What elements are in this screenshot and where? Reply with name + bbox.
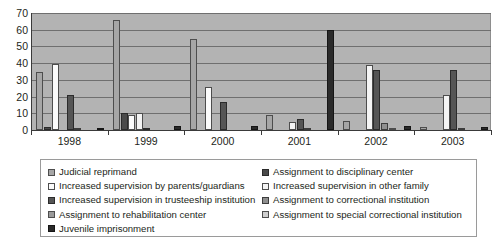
bar: [381, 123, 388, 130]
x-axis-tick: [491, 131, 492, 135]
legend-swatch-icon: [48, 211, 55, 218]
bar-chart: 010203040506070 199819992000200120022003: [0, 0, 496, 152]
bar: [220, 102, 227, 130]
bar-group: [338, 13, 415, 130]
bar-group: [414, 13, 491, 130]
legend-item[interactable]: Assignment to special correctional insti…: [262, 208, 482, 222]
bar: [121, 113, 128, 130]
bar: [67, 95, 74, 130]
legend-swatch-icon: [262, 211, 269, 218]
y-axis-tick-label: 40: [4, 58, 28, 68]
bar: [113, 20, 120, 130]
bar: [443, 95, 450, 130]
legend-item[interactable]: Assignment to rehabilitation center: [48, 208, 263, 222]
legend-column-right: Assignment to disciplinary centerIncreas…: [262, 165, 482, 222]
legend-swatch-icon: [262, 169, 269, 176]
legend-label: Assignment to rehabilitation center: [59, 210, 206, 220]
legend-swatch-icon: [48, 169, 55, 176]
bar: [266, 115, 273, 130]
bar: [373, 70, 380, 130]
y-axis-labels: 010203040506070: [0, 0, 28, 152]
x-axis-tick-label: 2000: [184, 135, 261, 147]
bar-group: [108, 13, 185, 130]
x-axis-tick-label: 2001: [261, 135, 338, 147]
bar: [343, 121, 350, 130]
y-axis-tick-label: 70: [4, 8, 28, 18]
legend-label: Judicial reprimand: [59, 167, 137, 177]
y-axis-tick-label: 10: [4, 108, 28, 118]
legend-swatch-icon: [48, 225, 55, 232]
legend-swatch-icon: [48, 183, 55, 190]
bar-group: [184, 13, 261, 130]
y-axis-tick-label: 20: [4, 92, 28, 102]
legend-item[interactable]: Assignment to disciplinary center: [262, 165, 482, 179]
bar: [136, 113, 143, 130]
legend: Judicial reprimandIncreased supervision …: [40, 159, 477, 237]
legend-label: Assignment to correctional institution: [273, 195, 429, 205]
bar: [205, 87, 212, 130]
legend-item[interactable]: Assignment to correctional institution: [262, 193, 482, 207]
legend-swatch-icon: [262, 197, 269, 204]
y-axis-tick-label: 0: [4, 125, 28, 135]
y-axis-tick-label: 60: [4, 25, 28, 35]
legend-label: Assignment to disciplinary center: [273, 167, 413, 177]
legend-label: Assignment to special correctional insti…: [273, 210, 462, 220]
bar: [36, 72, 43, 131]
bar: [190, 39, 197, 130]
legend-swatch-icon: [48, 197, 55, 204]
y-axis-tick-label: 30: [4, 75, 28, 85]
legend-item[interactable]: Increased supervision by parents/guardia…: [48, 179, 263, 193]
legend-item[interactable]: Juvenile imprisonment: [48, 222, 263, 236]
legend-label: Juvenile imprisonment: [59, 224, 154, 234]
legend-swatch-icon: [262, 183, 269, 190]
legend-item[interactable]: Increased supervision in trusteeship ins…: [48, 193, 263, 207]
bar-group: [31, 13, 108, 130]
x-axis-tick-label: 1999: [108, 135, 185, 147]
legend-column-left: Judicial reprimandIncreased supervision …: [48, 165, 263, 236]
bar: [366, 65, 373, 130]
bar: [297, 119, 304, 130]
y-axis-line: [31, 13, 32, 131]
legend-label: Increased supervision in trusteeship ins…: [59, 195, 255, 205]
bar: [327, 30, 334, 130]
legend-label: Increased supervision by parents/guardia…: [59, 181, 245, 191]
bar-group: [261, 13, 338, 130]
plot-area: [31, 13, 491, 130]
bar: [450, 70, 457, 130]
legend-item[interactable]: Judicial reprimand: [48, 165, 263, 179]
bar: [128, 115, 135, 130]
y-axis-tick-label: 50: [4, 41, 28, 51]
x-axis-tick-label: 2002: [338, 135, 415, 147]
legend-label: Increased supervision in other family: [273, 181, 429, 191]
x-axis-tick-label: 1998: [31, 135, 108, 147]
x-axis-tick-label: 2003: [414, 135, 491, 147]
legend-item[interactable]: Increased supervision in other family: [262, 179, 482, 193]
bar: [289, 122, 296, 130]
bar: [52, 64, 59, 130]
